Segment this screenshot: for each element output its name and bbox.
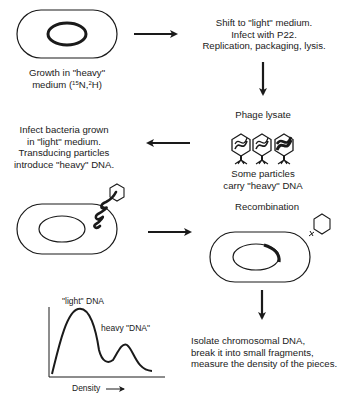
bacterium-heavy xyxy=(17,10,117,58)
density-plot xyxy=(49,307,165,389)
step6-label: Isolate chromosomal DNA, break it into s… xyxy=(191,335,337,370)
recombination-title: Recombination xyxy=(228,201,306,213)
plot-x-label: Density xyxy=(72,383,100,395)
injected-dna-coil-icon xyxy=(94,192,116,228)
step2-label: Shift to "light" medium. Infect with P22… xyxy=(196,17,332,52)
phage-heavy-icon xyxy=(275,134,293,164)
plot-peak-light-label: "light" DNA xyxy=(62,296,104,308)
phage-lysate-title: Phage lysate xyxy=(222,109,304,121)
phage-light-2-icon xyxy=(253,134,271,164)
recombined-heavy-segment xyxy=(264,245,279,262)
density-curve xyxy=(52,309,152,374)
step1-label: Growth in "heavy" medium (15N,2H) xyxy=(22,67,112,90)
bacterium-recombinant xyxy=(210,214,330,282)
bacterium-infected xyxy=(17,184,124,254)
empty-phage-head-icon xyxy=(314,214,330,234)
plot-peak-heavy-label: heavy "DNA" xyxy=(101,323,150,335)
phage-light-1-icon xyxy=(232,134,250,164)
phage-lysate-caption: Some particles carry "heavy" DNA xyxy=(215,168,311,191)
step4-label: Infect bacteria grown in "light" medium.… xyxy=(8,124,120,170)
phage-particles xyxy=(232,134,293,164)
